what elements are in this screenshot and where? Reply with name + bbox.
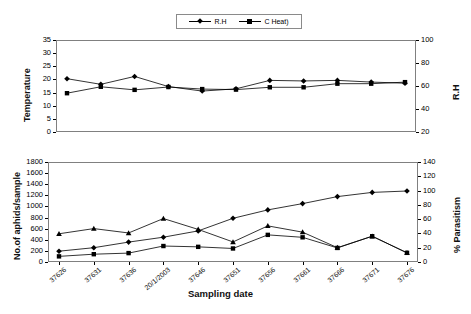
axis-tick-label: 40 <box>423 229 443 237</box>
axis-tick-label: 15 <box>35 89 51 97</box>
axis-tick-label: 1400 <box>19 180 43 188</box>
x-axis-tick-mark <box>372 262 373 265</box>
x-tick-label: 37666 <box>315 266 346 293</box>
axis-tick-label: 40 <box>421 105 441 113</box>
axis-tick-label: 25 <box>35 62 51 70</box>
axis-tick-label: 60 <box>423 215 443 223</box>
axis-tick-label: 0 <box>35 128 51 136</box>
x-tick-label: 37626 <box>37 266 68 293</box>
axis-tick-label: 5 <box>35 115 51 123</box>
top-plot-area <box>56 40 416 132</box>
axis-tick-label: 400 <box>19 236 43 244</box>
axis-tick-label: 20 <box>423 244 443 252</box>
axis-tick-mark <box>418 219 421 220</box>
axis-tick-label: 20 <box>421 128 441 136</box>
axis-tick-label: 0 <box>423 258 443 266</box>
legend-label-rh: R.H <box>214 18 226 26</box>
aphid-parasitism-chart: No.of Examined aphid No .of Mummified ap… <box>0 148 471 314</box>
x-axis-tick-mark <box>407 262 408 265</box>
x-tick-label: 37661 <box>281 266 312 293</box>
x-axis-tick-mark <box>268 262 269 265</box>
axis-tick-label: 800 <box>19 214 43 222</box>
axis-tick-label: 0 <box>19 258 43 266</box>
bottom-chart-lines <box>49 163 417 261</box>
top-y-right-axis-title: R.H <box>451 85 461 101</box>
x-axis-tick-mark <box>59 262 60 265</box>
axis-tick-label: 35 <box>35 36 51 44</box>
axis-tick-label: 1000 <box>19 202 43 210</box>
axis-tick-label: 1600 <box>19 169 43 177</box>
axis-tick-mark <box>418 205 421 206</box>
axis-tick-label: 10 <box>35 102 51 110</box>
x-tick-label: 37676 <box>385 266 416 293</box>
bottom-plot-area <box>48 162 418 262</box>
axis-tick-label: 80 <box>423 201 443 209</box>
temperature-rh-chart: R.H C Heat) Temperature R.H 353025201510… <box>0 0 471 145</box>
x-axis-tick-mark <box>303 262 304 265</box>
x-axis-tick-mark <box>233 262 234 265</box>
axis-tick-label: 80 <box>421 59 441 67</box>
axis-tick-label: 120 <box>423 172 443 180</box>
axis-tick-mark <box>418 176 421 177</box>
top-y-left-axis-title: Temperature <box>22 68 32 122</box>
legend-item-rh: R.H <box>189 18 226 26</box>
axis-tick-label: 100 <box>423 187 443 195</box>
axis-tick-label: 20 <box>35 75 51 83</box>
axis-tick-mark <box>418 162 421 163</box>
axis-tick-mark <box>418 248 421 249</box>
axis-tick-mark <box>416 86 419 87</box>
diamond-marker-icon <box>189 18 211 25</box>
square-marker-icon <box>239 18 261 25</box>
x-tick-label: 37636 <box>107 266 138 293</box>
axis-tick-label: 60 <box>421 82 441 90</box>
x-tick-label: 37631 <box>72 266 103 293</box>
axis-tick-label: 200 <box>19 247 43 255</box>
axis-tick-label: 1200 <box>19 191 43 199</box>
x-tick-label: 20/1/2003 <box>141 266 172 293</box>
axis-tick-mark <box>416 109 419 110</box>
axis-tick-label: 140 <box>423 158 443 166</box>
bottom-y-right-axis-title: % Parasitism <box>452 197 462 253</box>
axis-tick-label: 600 <box>19 225 43 233</box>
legend-label-cheat: C Heat) <box>264 18 288 26</box>
x-axis-tick-mark <box>129 262 130 265</box>
x-axis-tick-mark <box>163 262 164 265</box>
axis-tick-mark <box>418 191 421 192</box>
series-line <box>59 235 407 257</box>
axis-tick-label: 30 <box>35 49 51 57</box>
axis-tick-mark <box>416 63 419 64</box>
axis-tick-mark <box>416 132 419 133</box>
legend-item-cheat: C Heat) <box>239 18 288 26</box>
axis-tick-mark <box>418 233 421 234</box>
axis-tick-mark <box>418 262 421 263</box>
x-axis-tick-mark <box>337 262 338 265</box>
x-axis-tick-mark <box>198 262 199 265</box>
axis-tick-label: 100 <box>421 36 441 44</box>
x-axis-tick-mark <box>94 262 95 265</box>
axis-tick-mark <box>53 132 56 133</box>
figure-root: R.H C Heat) Temperature R.H 353025201510… <box>0 0 471 314</box>
axis-tick-mark <box>45 262 48 263</box>
axis-tick-label: 1800 <box>19 158 43 166</box>
top-chart-legend: R.H C Heat) <box>176 14 302 29</box>
top-chart-lines <box>57 41 415 131</box>
x-axis-title: Sampling date <box>188 288 253 299</box>
x-tick-label: 37671 <box>350 266 381 293</box>
axis-tick-mark <box>416 40 419 41</box>
